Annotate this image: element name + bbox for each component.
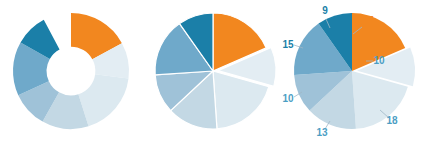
pie-data-label: 13 — [316, 127, 328, 138]
pie-data-label: 15 — [282, 39, 294, 50]
pie-chart-figure: 1710181310159 — [0, 0, 429, 143]
charts-canvas: 1710181310159 — [0, 0, 429, 143]
pie-data-label: 18 — [386, 115, 398, 126]
exploded-pie-chart — [155, 13, 276, 129]
pie-data-label: 10 — [373, 55, 385, 66]
pie-data-label: 17 — [362, 15, 374, 26]
donut-chart — [13, 13, 129, 129]
labeled-pie-chart — [294, 13, 415, 129]
pie-data-label: 9 — [322, 5, 328, 16]
pie-data-label: 10 — [282, 93, 294, 104]
